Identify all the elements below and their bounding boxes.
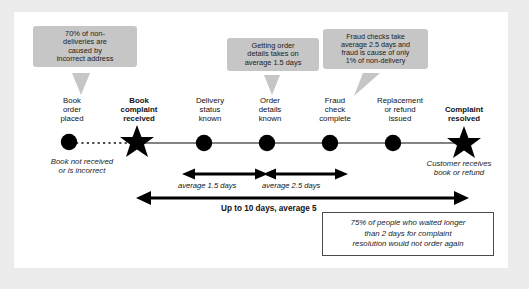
diagram-canvas: 70% of non- deliveries are caused by inc… [14,12,508,268]
marker-order-details-known [259,135,275,151]
stat-box-repeat-orders: 75% of people who waited longer than 2 d… [322,212,494,256]
callout-fraud-check: Fraud checks take average 2.5 days and f… [323,29,428,69]
callout-order-details-time: Getting order details takes on average 1… [227,38,319,71]
diagram-page: 70% of non- deliveries are caused by inc… [0,0,529,289]
milestone-label-complaint-resolved: Complaint resolved [428,105,500,123]
span-label-order-to-fraud: average 2.5 days [262,181,320,190]
callout-non-delivery-address: 70% of non- deliveries are caused by inc… [33,26,137,67]
marker-fraud-check-complete [322,135,338,151]
marker-delivery-status-known [196,135,212,151]
span-label-delivery-to-order: average 1.5 days [178,181,236,190]
marker-replacement-refund [385,135,401,151]
marker-complaint-resolved [447,126,481,158]
marker-book-order-placed [61,134,77,150]
milestone-label-replacement-refund: Replacement or refund issued [362,96,438,124]
span-label-total: Up to 10 days, average 5 [221,204,317,213]
callout-fraud-check-tail [354,73,380,96]
milestone-label-delivery-status-known: Delivery status known [177,96,243,124]
callout-non-delivery-address-text: 70% of non- deliveries are caused by inc… [38,30,132,63]
milestone-label-book-order-placed: Book order placed [40,96,104,124]
callout-non-delivery-address-tail [72,73,90,95]
note-book-not-received: Book not received or is incorrect [30,157,134,176]
callout-order-details-time-text: Getting order details takes on average 1… [232,42,314,67]
span-arrow-order-to-fraud [263,169,348,180]
callout-order-details-time-tail [264,75,280,95]
milestone-label-fraud-check-complete: Fraud check complete [302,96,368,124]
span-arrow-total [136,191,469,205]
milestone-label-book-complaint-received: Book complaint received [102,96,176,124]
callout-fraud-check-text: Fraud checks take average 2.5 days and f… [328,33,423,65]
marker-book-complaint-received [120,125,154,157]
note-customer-receives: Customer receives book or refund [410,159,508,178]
span-arrow-delivery-to-order [182,169,268,180]
milestone-label-order-details-known: Order details known [238,96,302,124]
